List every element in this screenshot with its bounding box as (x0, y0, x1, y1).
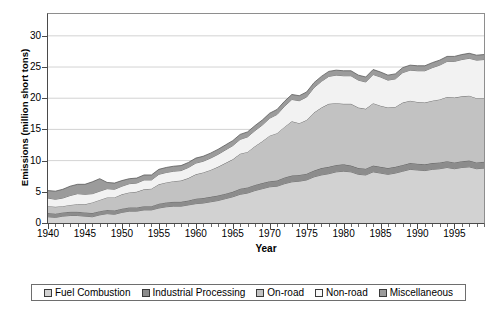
x-tick-mark-minor (55, 224, 56, 227)
legend-label: Fuel Combustion (55, 288, 131, 298)
x-tick-label: 1980 (324, 228, 364, 239)
x-tick-mark-minor (284, 224, 285, 227)
legend-item[interactable]: Industrial Processing (142, 288, 246, 298)
legend-swatch-icon (256, 289, 264, 297)
x-tick-mark-minor (218, 224, 219, 227)
y-tick-label: 15 (8, 124, 41, 134)
x-tick-mark-minor (78, 224, 79, 227)
x-tick-mark-minor (248, 224, 249, 227)
x-tick-mark-minor (373, 224, 374, 227)
x-tick-mark-minor (432, 224, 433, 227)
x-tick-mark-minor (336, 224, 337, 227)
legend-item[interactable]: Miscellaneous (379, 288, 453, 298)
x-tick-mark-minor (203, 224, 204, 227)
legend-swatch-icon (315, 289, 323, 297)
x-tick-mark-minor (174, 224, 175, 227)
x-tick-mark-minor (225, 224, 226, 227)
legend-item[interactable]: Fuel Combustion (44, 288, 131, 298)
x-tick-mark-minor (166, 224, 167, 227)
x-tick-mark-minor (115, 224, 116, 227)
x-tick-mark-minor (211, 224, 212, 227)
x-tick-mark-minor (477, 224, 478, 227)
x-tick-mark-minor (484, 224, 485, 227)
legend-label: Non-road (326, 288, 368, 298)
x-tick-mark-minor (100, 224, 101, 227)
x-tick-mark-minor (462, 224, 463, 227)
x-tick-label: 1990 (397, 228, 437, 239)
x-tick-mark-minor (262, 224, 263, 227)
y-tick-label: 10 (8, 156, 41, 166)
x-tick-mark-minor (351, 224, 352, 227)
x-tick-mark-minor (63, 224, 64, 227)
legend-swatch-icon (379, 289, 387, 297)
x-tick-mark-minor (70, 224, 71, 227)
x-tick-label: 1975 (287, 228, 327, 239)
emissions-stacked-area-chart: Emissions (million short tons) 051015202… (0, 0, 497, 310)
x-tick-mark-minor (425, 224, 426, 227)
x-tick-label: 1940 (28, 228, 68, 239)
x-tick-mark-minor (403, 224, 404, 227)
x-tick-mark-minor (144, 224, 145, 227)
x-tick-mark-minor (107, 224, 108, 227)
x-tick-label: 1960 (176, 228, 216, 239)
x-tick-mark-minor (277, 224, 278, 227)
x-tick-label: 1945 (65, 228, 105, 239)
legend-swatch-icon (142, 289, 150, 297)
x-tick-label: 1950 (102, 228, 142, 239)
legend-item[interactable]: On-road (256, 288, 304, 298)
x-tick-label: 1955 (139, 228, 179, 239)
legend-item[interactable]: Non-road (315, 288, 368, 298)
x-tick-mark-minor (137, 224, 138, 227)
x-tick-mark-minor (395, 224, 396, 227)
area-series-svg (48, 14, 484, 223)
x-tick-mark-minor (92, 224, 93, 227)
y-tick-label: 5 (8, 187, 41, 197)
x-tick-mark-minor (388, 224, 389, 227)
x-tick-mark-minor (181, 224, 182, 227)
x-tick-mark-minor (255, 224, 256, 227)
x-tick-mark-minor (410, 224, 411, 227)
x-tick-mark-minor (292, 224, 293, 227)
x-tick-label: 1970 (250, 228, 290, 239)
plot-area (47, 13, 485, 224)
x-tick-mark-minor (447, 224, 448, 227)
legend-label: Industrial Processing (153, 288, 246, 298)
y-tick-label: 20 (8, 93, 41, 103)
x-tick-mark-minor (366, 224, 367, 227)
x-tick-mark-minor (299, 224, 300, 227)
x-tick-mark-minor (240, 224, 241, 227)
legend-label: Miscellaneous (390, 288, 453, 298)
y-tick-label: 0 (8, 218, 41, 228)
x-tick-mark-minor (188, 224, 189, 227)
x-axis-title: Year (47, 243, 485, 254)
x-tick-label: 1965 (213, 228, 253, 239)
y-tick-label: 25 (8, 62, 41, 72)
legend-swatch-icon (44, 289, 52, 297)
x-tick-mark-minor (314, 224, 315, 227)
x-tick-mark-minor (440, 224, 441, 227)
y-tick-label: 30 (8, 31, 41, 41)
legend-label: On-road (267, 288, 304, 298)
x-tick-mark-minor (329, 224, 330, 227)
x-tick-mark-minor (469, 224, 470, 227)
x-tick-label: 1985 (361, 228, 401, 239)
x-tick-mark-minor (151, 224, 152, 227)
x-tick-mark-minor (321, 224, 322, 227)
x-tick-mark-minor (358, 224, 359, 227)
x-tick-label: 1995 (434, 228, 474, 239)
chart-legend: Fuel CombustionIndustrial ProcessingOn-r… (31, 284, 466, 301)
x-tick-mark-minor (129, 224, 130, 227)
